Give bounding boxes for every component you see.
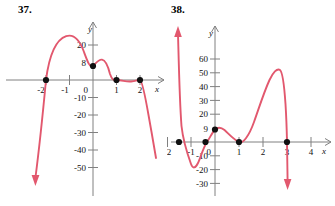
y-tick-label-8: 8 — [82, 58, 87, 68]
y-tick-label-60-38: 60 — [199, 54, 209, 64]
graph-38-svg: -2 -1 0 1 2 3 4 60 50 40 30 20 9 -10 -20… — [167, 0, 335, 206]
axes-38 — [171, 26, 331, 196]
y-tick-label-neg40: -40 — [74, 145, 86, 155]
marked-point-x-neg15-38 — [176, 139, 182, 145]
x-tick-label-neg2: -2 — [37, 85, 45, 95]
marked-point-x-neg2 — [43, 77, 49, 83]
x-tick-label-2-38: 2 — [261, 147, 266, 157]
marked-point-y-9-38 — [212, 126, 218, 132]
curve-arrow-up-left-38 — [174, 26, 182, 37]
marked-point-x-neg04-38 — [202, 139, 208, 145]
figure-pair: 37. — [0, 0, 335, 206]
marked-point-x-1-38 — [236, 139, 242, 145]
y-tick-label-neg20: -20 — [74, 110, 86, 120]
curve-37 — [35, 36, 156, 178]
marked-point-x-3-38 — [284, 139, 290, 145]
y-tick-label-neg50: -50 — [74, 163, 86, 173]
y-tick-label-30-38: 30 — [199, 96, 209, 106]
marked-point-y-8 — [90, 63, 96, 69]
y-tick-label-neg10: -10 — [74, 93, 86, 103]
x-tick-label-1: 1 — [114, 85, 119, 95]
curve-arrow-down-left-37 — [32, 175, 40, 186]
y-axis-label-38: y — [208, 28, 213, 38]
problem-37-panel: 37. — [0, 0, 167, 206]
marked-point-x-1 — [113, 77, 119, 83]
marked-point-x-2 — [137, 77, 143, 83]
y-tick-label-neg20-38: -20 — [196, 165, 208, 175]
y-tick-label-9-38: 9 — [204, 124, 209, 134]
y-tick-label-20-38: 20 — [199, 109, 209, 119]
curve-38 — [178, 34, 288, 182]
y-tick-label-neg30-38: -30 — [196, 179, 208, 189]
problem-38-panel: 38. — [167, 0, 335, 206]
y-axis-label-37: y — [87, 24, 92, 34]
y-tick-label-50-38: 50 — [199, 68, 209, 78]
x-tick-label-2: 2 — [138, 85, 143, 95]
x-tick-label-4-38: 4 — [309, 147, 314, 157]
x-axis-label-37: x — [154, 84, 159, 94]
y-tick-label-neg30: -30 — [74, 128, 86, 138]
x-tick-label-1-38: 1 — [237, 147, 242, 157]
x-tick-label-neg1: -1 — [61, 85, 69, 95]
y-tick-label-40-38: 40 — [199, 82, 209, 92]
x-tick-label-neg2-38: -2 — [167, 147, 171, 157]
x-axis-label-38: x — [321, 146, 326, 156]
graph-37-svg: -2 -1 0 1 2 20 8 -10 -20 -30 -40 -50 y x — [0, 0, 167, 206]
curve-arrow-down-right-38 — [284, 179, 292, 190]
